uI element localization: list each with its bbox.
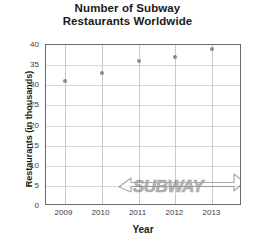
gridline (102, 45, 103, 204)
gridline (46, 65, 240, 66)
data-point (100, 71, 104, 75)
gridline (46, 85, 240, 86)
chart-title: Number of Subway Restaurants Worldwide (0, 2, 255, 28)
gridline (212, 45, 213, 204)
gridline (46, 146, 240, 147)
x-axis-tick-label: 2011 (118, 208, 158, 217)
y-axis-tick-label: 35 (9, 60, 39, 69)
y-axis-tick-label: 20 (9, 120, 39, 129)
y-axis-tick-label: 40 (9, 40, 39, 49)
chart-title-line-2: Restaurants Worldwide (0, 15, 255, 28)
data-point (63, 79, 67, 83)
y-axis-tick-label: 5 (9, 180, 39, 189)
y-axis-tick-label: 0 (9, 201, 39, 210)
y-axis-tick-label: 30 (9, 80, 39, 89)
y-axis-tick-label: 25 (9, 100, 39, 109)
data-point (210, 47, 214, 51)
gridline (46, 186, 240, 187)
x-axis-tick-label: 2012 (154, 208, 194, 217)
gridline (175, 45, 176, 204)
plot-area: SUBWAY (45, 44, 241, 205)
gridline (139, 45, 140, 204)
data-point (173, 55, 177, 59)
data-point (137, 59, 141, 63)
y-axis-tick-label: 15 (9, 140, 39, 149)
gridline (46, 166, 240, 167)
x-axis-tick-label: 2009 (44, 208, 84, 217)
chart-title-line-1: Number of Subway (0, 2, 255, 15)
y-axis-tick-label: 10 (9, 160, 39, 169)
x-axis-tick-label: 2013 (191, 208, 231, 217)
x-axis-title: Year (45, 224, 241, 235)
chart-container: Number of Subway Restaurants Worldwide R… (0, 0, 255, 247)
gridline (46, 105, 240, 106)
gridline (65, 45, 66, 204)
x-axis-tick-label: 2010 (81, 208, 121, 217)
gridline (46, 126, 240, 127)
